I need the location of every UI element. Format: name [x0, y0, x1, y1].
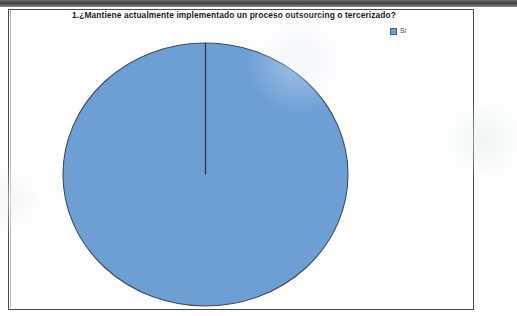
pie-chart-svg	[62, 42, 349, 307]
scanner-edge-band	[0, 0, 517, 7]
scanned-chart-page: 1.¿Mantiene actualmente implementado un …	[0, 0, 517, 316]
chart-title: 1.¿Mantiene actualmente implementado un …	[14, 10, 454, 21]
chart-legend: Si	[390, 27, 406, 35]
pie-chart	[62, 42, 349, 307]
legend-swatch-si-icon	[390, 28, 397, 35]
legend-label-si: Si	[400, 27, 406, 35]
